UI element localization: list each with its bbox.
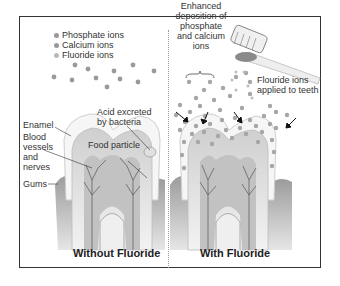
left-tooth (44, 114, 165, 250)
caption-with-fluoride: With Fluoride (200, 247, 270, 259)
label-acid: Acid excreted by bacteria (97, 107, 152, 127)
label-blood-vessels: Blood vessels and nerves (23, 132, 53, 172)
fluoride-ion-icon (54, 53, 59, 58)
label-enhanced-deposition: Enhanced deposition of phosphate and cal… (171, 1, 231, 51)
left-ions (52, 63, 157, 90)
phosphate-ion-icon (54, 33, 59, 38)
label-enamel: Enamel (23, 120, 54, 130)
right-tooth (170, 114, 292, 250)
calcium-ion-icon (54, 43, 59, 48)
legend-calcium: Calcium ions (54, 40, 114, 50)
legend-phosphate: Phosphate ions (54, 30, 124, 40)
legend-fluoride: Fluoride ions (54, 50, 114, 60)
label-gums: Gums (23, 179, 47, 189)
label-fluoride-applied: Flouride ions applied to teeth (257, 75, 319, 95)
caption-without-fluoride: Without Fluoride (73, 247, 160, 259)
label-food-particle: Food particle (88, 140, 140, 150)
